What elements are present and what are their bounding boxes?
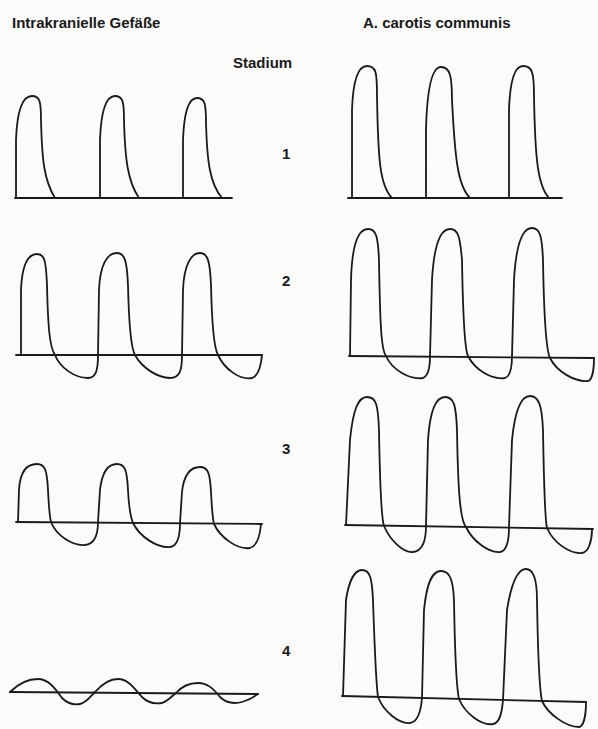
waveform-carotid-stage-2 (349, 228, 594, 381)
waveform-intracranial-stage-4 (10, 679, 258, 704)
waveform-intracranial-stage-2 (16, 253, 262, 378)
waveform-intracranial-stage-3 (16, 464, 262, 548)
waveform-intracranial-stage-1 (15, 96, 232, 198)
waveform-carotid-stage-1 (348, 66, 562, 198)
waveform-carotid-stage-3 (345, 396, 593, 553)
waveform-carotid-stage-4 (342, 569, 586, 727)
waveform-diagram (0, 0, 598, 729)
